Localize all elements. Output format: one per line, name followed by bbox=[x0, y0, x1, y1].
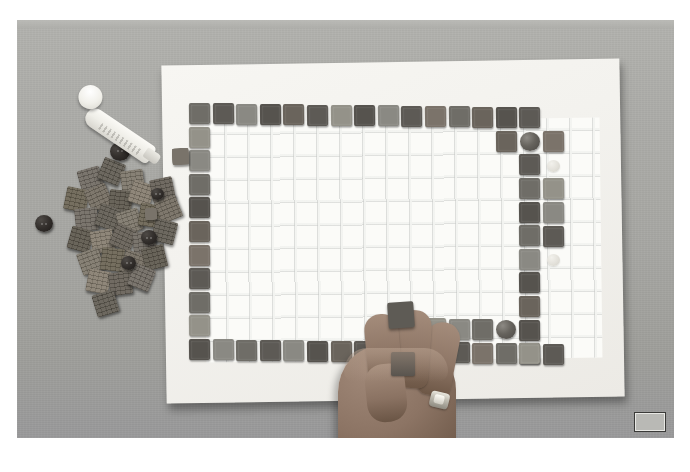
tile-face bbox=[214, 341, 232, 359]
mosaic-tile-top-13 bbox=[472, 106, 493, 127]
mosaic-tile-right-12 bbox=[519, 296, 540, 317]
mosaic-tile-top-6 bbox=[307, 104, 328, 125]
mosaic-tile-right-8 bbox=[519, 225, 540, 246]
tile-face bbox=[190, 152, 208, 170]
tile-face bbox=[497, 108, 515, 126]
tile-face bbox=[521, 109, 539, 127]
tile-face bbox=[190, 317, 208, 335]
tile-face bbox=[190, 246, 208, 264]
corner-badge bbox=[634, 412, 666, 432]
mosaic-tile-left-2 bbox=[189, 150, 210, 171]
tile-face bbox=[521, 156, 539, 174]
tile-face bbox=[450, 108, 468, 126]
flower-craft-piece bbox=[172, 148, 189, 165]
tile-face bbox=[285, 342, 303, 360]
tile-face bbox=[214, 105, 232, 123]
flower-craft-piece bbox=[145, 208, 157, 220]
mosaic-tile-top-1 bbox=[189, 103, 210, 124]
mosaic-tile-top-5 bbox=[283, 104, 304, 125]
mosaic-tile-left-6 bbox=[189, 244, 210, 265]
button-hole bbox=[45, 223, 47, 225]
button-hole bbox=[146, 237, 148, 239]
mosaic-tile-bottom-3 bbox=[236, 339, 257, 360]
mosaic-tile-top-4 bbox=[260, 104, 281, 125]
tile-face bbox=[261, 341, 279, 359]
mosaic-tile-right-9 bbox=[543, 225, 564, 246]
tile-face bbox=[521, 179, 539, 197]
tile-face bbox=[544, 203, 562, 221]
mosaic-tile-right-2 bbox=[543, 131, 564, 152]
tile-face bbox=[190, 340, 208, 358]
button-hole bbox=[41, 223, 43, 225]
held-mosaic-tile bbox=[387, 301, 415, 329]
mosaic-tile-right-3 bbox=[519, 154, 540, 175]
mosaic-tile-right-10 bbox=[519, 249, 540, 270]
tile-face bbox=[497, 344, 515, 362]
tile-face bbox=[356, 106, 374, 124]
tile-face bbox=[308, 342, 326, 360]
mosaic-tile-top-10 bbox=[401, 106, 422, 127]
tile-face bbox=[426, 107, 444, 125]
tile-face bbox=[332, 106, 350, 124]
dark-button bbox=[121, 256, 136, 270]
tile-face bbox=[308, 106, 326, 124]
dark-button bbox=[141, 230, 157, 245]
tile-face bbox=[521, 321, 539, 339]
mosaic-tile-top-2 bbox=[212, 103, 233, 124]
mosaic-tile-bottom-5 bbox=[283, 340, 304, 361]
mosaic-tile-left-1 bbox=[189, 126, 210, 147]
mosaic-tile-inner-bottom-6 bbox=[519, 319, 540, 340]
tile-face bbox=[544, 180, 562, 198]
tile-face bbox=[190, 293, 208, 311]
tile-face bbox=[238, 105, 256, 123]
tile-face bbox=[497, 132, 515, 150]
mosaic-tile-top-7 bbox=[330, 105, 351, 126]
tile-face bbox=[544, 132, 562, 150]
tile-face bbox=[474, 108, 492, 126]
button-hole bbox=[159, 193, 161, 195]
mosaic-tile-top-3 bbox=[236, 103, 257, 124]
tile-face bbox=[190, 128, 208, 146]
mosaic-tile-left-9 bbox=[189, 315, 210, 336]
photo-canvas bbox=[0, 0, 690, 472]
mosaic-tile-inner-bottom-5 bbox=[472, 319, 493, 340]
photograph bbox=[17, 20, 674, 438]
mosaic-tile-right-14 bbox=[519, 343, 540, 364]
dark-button bbox=[151, 188, 164, 200]
dark-button bbox=[35, 215, 53, 232]
tile-face bbox=[379, 107, 397, 125]
mosaic-tile-right-6 bbox=[519, 201, 540, 222]
mosaic-tile-bottom-1 bbox=[189, 339, 210, 360]
mosaic-tile-top-14 bbox=[496, 107, 517, 128]
mosaic-tile-top-12 bbox=[448, 106, 469, 127]
tile-face bbox=[190, 270, 208, 288]
mosaic-tile-right-11 bbox=[519, 272, 540, 293]
mosaic-tile-right-1 bbox=[496, 130, 517, 151]
mosaic-tile-right-5 bbox=[543, 178, 564, 199]
mosaic-tile-top-9 bbox=[378, 105, 399, 126]
ring-stone bbox=[433, 394, 445, 405]
knuckle-ridge bbox=[344, 348, 448, 382]
tile-face bbox=[474, 320, 492, 338]
tile-face bbox=[190, 199, 208, 217]
button-hole bbox=[130, 262, 132, 264]
mosaic-tile-left-5 bbox=[189, 221, 210, 242]
button-hole bbox=[155, 193, 157, 195]
mosaic-tile-bottom-13 bbox=[472, 342, 493, 363]
button-hole bbox=[150, 237, 152, 239]
pale-disc-2 bbox=[547, 254, 560, 266]
mosaic-tile-bottom-6 bbox=[307, 340, 328, 361]
table-edge-band bbox=[17, 20, 674, 28]
mosaic-tile-bottom-14 bbox=[496, 343, 517, 364]
pale-disc-1 bbox=[547, 160, 560, 172]
tile-face bbox=[521, 297, 539, 315]
tile-face bbox=[403, 107, 421, 125]
mosaic-tile-left-8 bbox=[189, 292, 210, 313]
mosaic-tile-right-4 bbox=[519, 178, 540, 199]
mosaic-tile-top-8 bbox=[354, 105, 375, 126]
tile-face bbox=[190, 175, 208, 193]
mosaic-tile-bottom-4 bbox=[260, 340, 281, 361]
mosaic-tile-right-7 bbox=[543, 202, 564, 223]
tile-face bbox=[190, 104, 208, 122]
mosaic-tile-left-7 bbox=[189, 268, 210, 289]
